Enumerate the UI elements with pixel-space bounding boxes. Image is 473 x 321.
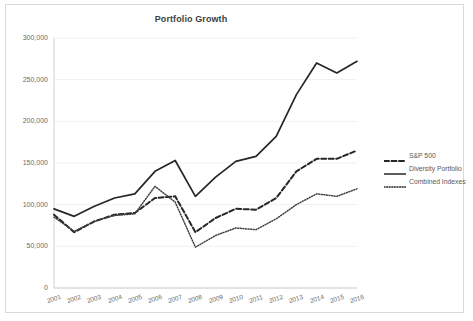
y-axis-tick-label: 150,000	[6, 159, 48, 167]
legend-item[interactable]: S&P 500	[384, 149, 472, 161]
legend-swatch-dotted	[384, 177, 406, 185]
legend-swatch-dashed	[384, 151, 406, 159]
y-axis-tick-label: 0	[6, 284, 48, 292]
y-axis-tick-label: 250,000	[6, 76, 48, 84]
legend-swatch-solid	[384, 164, 406, 172]
y-axis-tick-label: 100,000	[6, 201, 48, 209]
chart-frame: Portfolio Growth 300,000250,000200,00015…	[5, 4, 464, 313]
y-axis-tick-label: 50,000	[6, 242, 48, 250]
series-line-solid	[54, 61, 357, 216]
y-axis-tick-label: 200,000	[6, 117, 48, 125]
series-line-dotted	[54, 186, 357, 247]
legend-item[interactable]: Diversity Portfolio	[384, 162, 472, 174]
legend-item-label: Diversity Portfolio	[409, 165, 462, 172]
legend-item-label: Combined Indexes	[409, 178, 466, 185]
legend-item-label: S&P 500	[409, 152, 436, 159]
chart-legend: S&P 500Diversity PortfolioCombined Index…	[384, 149, 472, 188]
y-axis-tick-label: 300,000	[6, 34, 48, 42]
legend-item[interactable]: Combined Indexes	[384, 175, 472, 187]
